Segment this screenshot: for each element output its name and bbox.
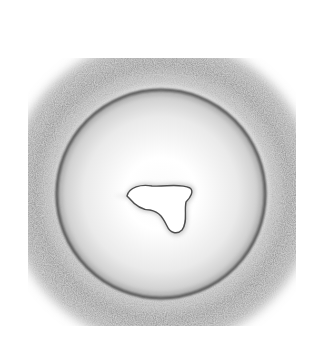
- cell-illustration: [0, 0, 324, 355]
